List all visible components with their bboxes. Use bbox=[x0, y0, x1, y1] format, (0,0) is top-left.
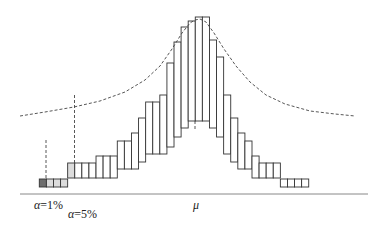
alpha-5-label: α=5% bbox=[68, 207, 97, 222]
histogram-column bbox=[139, 118, 146, 162]
alpha-1-label: α=1% bbox=[34, 198, 63, 213]
histogram-column bbox=[273, 163, 280, 178]
histogram-column bbox=[259, 163, 266, 178]
histogram-column bbox=[202, 17, 209, 121]
histogram-column bbox=[124, 141, 131, 169]
histogram-column bbox=[188, 21, 195, 121]
histogram-column bbox=[252, 156, 259, 178]
mu-label: μ bbox=[193, 198, 199, 213]
histogram-column bbox=[39, 179, 46, 187]
histogram-column bbox=[96, 156, 103, 178]
histogram-column bbox=[195, 17, 202, 121]
histogram-column bbox=[167, 63, 174, 147]
histogram-column bbox=[280, 179, 287, 187]
histogram-column bbox=[287, 179, 294, 187]
histogram-column bbox=[266, 163, 273, 178]
histogram-column bbox=[110, 156, 117, 178]
histogram-column bbox=[103, 156, 110, 178]
histogram-column bbox=[209, 40, 216, 128]
histogram-column bbox=[61, 179, 68, 187]
histogram-columns bbox=[39, 17, 308, 187]
histogram-column bbox=[224, 95, 231, 154]
histogram-column bbox=[153, 102, 160, 154]
histogram-column bbox=[217, 57, 224, 137]
histogram-column bbox=[231, 118, 238, 162]
histogram-column bbox=[146, 102, 153, 154]
histogram-column bbox=[295, 179, 302, 187]
histogram-column bbox=[245, 141, 252, 169]
mu-symbol: μ bbox=[193, 198, 199, 212]
histogram-column bbox=[53, 179, 60, 187]
histogram-column bbox=[160, 95, 167, 154]
histogram-column bbox=[181, 27, 188, 128]
histogram-column bbox=[46, 179, 53, 187]
histogram-column bbox=[302, 179, 309, 187]
distribution-diagram bbox=[0, 0, 383, 230]
histogram-column bbox=[89, 163, 96, 178]
histogram-column bbox=[82, 163, 89, 178]
histogram-column bbox=[68, 163, 75, 178]
histogram-column bbox=[174, 42, 181, 137]
histogram-column bbox=[238, 133, 245, 169]
histogram-column bbox=[117, 141, 124, 169]
histogram-column bbox=[75, 163, 82, 178]
histogram-column bbox=[131, 133, 138, 169]
